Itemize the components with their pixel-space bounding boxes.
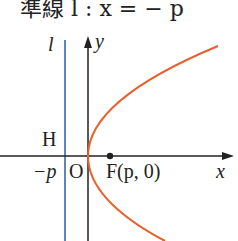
parabola-curve xyxy=(88,46,218,241)
focus-point xyxy=(107,153,113,159)
parabola-diagram xyxy=(0,0,238,241)
directrix-label: l xyxy=(48,33,54,56)
y-axis-arrow-icon xyxy=(84,36,92,48)
origin-label: O xyxy=(69,160,83,183)
x-axis-arrow-icon xyxy=(222,152,234,160)
neg-p-label: −p xyxy=(33,160,57,183)
focus-label: F(p, 0) xyxy=(106,160,160,183)
point-H-label: H xyxy=(42,128,56,151)
y-axis-label: y xyxy=(95,30,104,53)
x-axis-label: x xyxy=(216,160,225,183)
